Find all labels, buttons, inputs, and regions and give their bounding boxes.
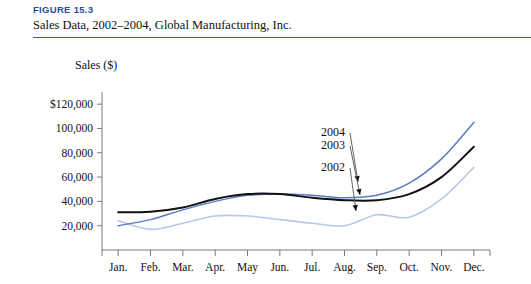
y-tick-label: 20,000 — [61, 220, 93, 233]
header-divider — [33, 37, 531, 38]
annotation-leader-2002 — [350, 168, 356, 211]
y-tick-label: 60,000 — [61, 171, 93, 184]
y-tick-label: 100,000 — [56, 122, 94, 135]
annotation-arrowhead-2003 — [356, 189, 361, 195]
series-lines — [118, 122, 474, 229]
x-tick-label: Aug. — [333, 261, 356, 274]
chart-canvas: Sales ($) $120,000100,00080,00060,00040,… — [0, 42, 531, 284]
x-tick-label: Jul. — [304, 261, 320, 273]
x-tick-label: Sep. — [367, 261, 387, 274]
y-axis-ticks: $120,000100,00080,00060,00040,00020,000 — [50, 98, 102, 233]
figure-number: FIGURE 15.3 — [33, 0, 531, 16]
x-tick-label: Feb. — [140, 261, 160, 273]
x-axis-ticks: Jan.Feb.Mar.Apr.MayJun.Jul.Aug.Sep.Oct.N… — [102, 250, 490, 274]
x-tick-label: Apr. — [205, 261, 225, 274]
annotation-label-2003: 2003 — [321, 138, 345, 152]
annotation-label-2004: 2004 — [321, 125, 345, 139]
x-tick-label: Mar. — [172, 261, 194, 273]
series-line-2003 — [118, 147, 474, 213]
x-tick-label: May — [237, 261, 258, 274]
x-tick-label: Jun. — [270, 261, 289, 273]
annotation-label-2002: 2002 — [321, 160, 345, 174]
y-tick-label: 40,000 — [61, 195, 93, 208]
annotation-arrowhead-2002 — [353, 205, 358, 211]
y-tick-label: $120,000 — [50, 98, 93, 111]
figure-caption: Sales Data, 2002–2004, Global Manufactur… — [33, 16, 531, 33]
y-tick-label: 80,000 — [61, 147, 93, 160]
y-axis-title: Sales ($) — [75, 58, 117, 72]
annotation-leader-2003 — [350, 146, 360, 195]
figure-header: FIGURE 15.3 Sales Data, 2002–2004, Globa… — [33, 0, 531, 33]
x-tick-label: Jan. — [109, 261, 127, 273]
x-tick-label: Dec. — [463, 261, 485, 273]
x-tick-label: Nov. — [431, 261, 453, 273]
sales-line-chart: Sales ($) $120,000100,00080,00060,00040,… — [0, 42, 531, 284]
x-tick-label: Oct. — [399, 261, 419, 273]
